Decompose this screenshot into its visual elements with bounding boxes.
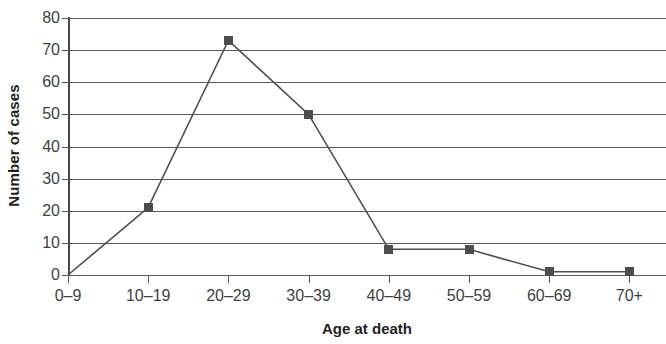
gridline-80 bbox=[68, 18, 666, 19]
y-tick-mark bbox=[62, 114, 69, 115]
y-tick-mark bbox=[62, 147, 69, 148]
y-tick-mark bbox=[62, 50, 69, 51]
y-tick-label: 50 bbox=[18, 106, 60, 122]
x-tick-mark bbox=[68, 276, 69, 283]
y-tick-mark bbox=[62, 275, 69, 276]
gridline-20 bbox=[68, 211, 666, 212]
x-tick-label: 10–19 bbox=[103, 287, 193, 305]
data-point-marker bbox=[144, 203, 153, 212]
y-tick-mark bbox=[62, 82, 69, 83]
y-tick-label: 10 bbox=[18, 235, 60, 251]
x-tick-label: 50–59 bbox=[424, 287, 514, 305]
y-axis-tick-labels: 01020304050607080 bbox=[14, 18, 60, 275]
x-tick-mark bbox=[228, 276, 229, 283]
gridline-30 bbox=[68, 179, 666, 180]
gridline-10 bbox=[68, 243, 666, 244]
y-tick-label: 40 bbox=[18, 139, 60, 155]
y-tick-label: 20 bbox=[18, 203, 60, 219]
gridline-60 bbox=[68, 82, 666, 83]
gridline-40 bbox=[68, 147, 666, 148]
y-tick-label: 80 bbox=[18, 10, 60, 26]
x-tick-mark bbox=[309, 276, 310, 283]
plot-area bbox=[68, 18, 666, 275]
x-tick-mark bbox=[549, 276, 550, 283]
data-point-marker bbox=[224, 36, 233, 45]
gridline-0 bbox=[68, 275, 666, 276]
y-tick-label: 30 bbox=[18, 171, 60, 187]
x-axis-title-label: Age at death bbox=[322, 320, 412, 337]
data-point-marker bbox=[625, 267, 634, 276]
y-tick-label: 70 bbox=[18, 42, 60, 58]
y-tick-label: 60 bbox=[18, 74, 60, 90]
y-tick-mark bbox=[62, 211, 69, 212]
x-tick-mark bbox=[148, 276, 149, 283]
y-tick-mark bbox=[62, 243, 69, 244]
x-tick-mark bbox=[389, 276, 390, 283]
x-tick-label: 30–39 bbox=[264, 287, 354, 305]
data-point-marker bbox=[545, 267, 554, 276]
y-tick-label: 0 bbox=[18, 267, 60, 283]
gridline-50 bbox=[68, 114, 666, 115]
chart-figure: Number of cases 01020304050607080 0–910–… bbox=[0, 0, 666, 344]
data-point-marker bbox=[304, 110, 313, 119]
x-tick-mark bbox=[469, 276, 470, 283]
x-tick-label: 70+ bbox=[584, 287, 666, 305]
x-axis-title: Age at death bbox=[0, 320, 666, 337]
data-point-marker bbox=[465, 245, 474, 254]
x-tick-label: 0–9 bbox=[23, 287, 113, 305]
x-tick-mark bbox=[629, 276, 630, 283]
x-tick-label: 20–29 bbox=[183, 287, 273, 305]
gridline-70 bbox=[68, 50, 666, 51]
x-tick-label: 60–69 bbox=[504, 287, 594, 305]
x-tick-label: 40–49 bbox=[344, 287, 434, 305]
y-tick-mark bbox=[62, 179, 69, 180]
y-tick-mark bbox=[62, 18, 69, 19]
data-point-marker bbox=[384, 245, 393, 254]
